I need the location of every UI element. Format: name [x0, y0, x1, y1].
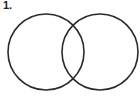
venn-circle-right: [62, 14, 138, 90]
venn-diagram: [0, 0, 140, 105]
